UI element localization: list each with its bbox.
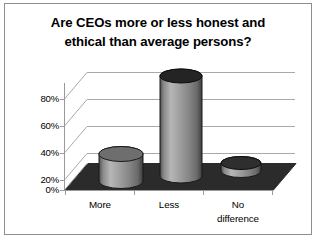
chart-frame: Are CEOs more or less honest and ethical… <box>4 3 312 235</box>
chart-title-line-2: ethical than average persons? <box>19 32 297 51</box>
x-tick-label-difference: difference <box>195 213 281 225</box>
chart-title-line-1: Are CEOs more or less honest and <box>19 13 297 32</box>
plot-area: 80% 60% 40% 20% 0% More Less No differen… <box>5 54 313 236</box>
chart-title: Are CEOs more or less honest and ethical… <box>19 13 297 51</box>
x-axis-tick-labels: More Less No difference <box>5 54 313 236</box>
x-tick-label-no: No <box>195 199 281 211</box>
